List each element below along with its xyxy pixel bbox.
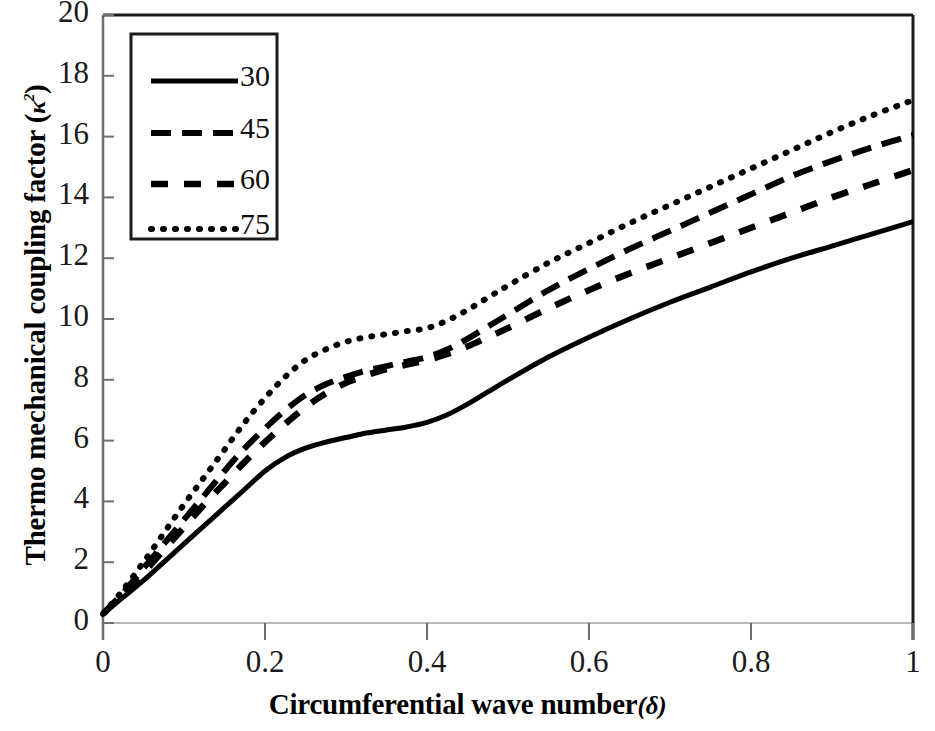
x-axis-title: Circumferential wave number(δ) <box>0 688 935 721</box>
x-axis-title-symbol: (δ) <box>638 692 667 719</box>
x-tick-label: 0.4 <box>382 644 472 680</box>
y-axis-title-text: Thermo mechanical coupling factor <box>19 130 51 565</box>
x-tick-label: 0.2 <box>220 644 310 680</box>
legend-label-75: 75 <box>240 207 270 241</box>
series-line-30 <box>103 222 913 614</box>
y-axis-title-exponent: 2 <box>21 94 37 101</box>
y-axis-title-wrap: Thermo mechanical coupling factor (κ2) <box>19 5 59 645</box>
legend-label-60: 60 <box>240 162 270 196</box>
y-axis-title: Thermo mechanical coupling factor (κ2) <box>19 85 52 566</box>
x-tick-label: 1 <box>868 644 935 680</box>
x-tick-label: 0.8 <box>706 644 796 680</box>
y-tick-marks <box>103 15 114 623</box>
legend-label-45: 45 <box>240 111 270 145</box>
y-axis-title-paren: ( <box>19 114 51 131</box>
plot-area <box>0 0 935 731</box>
x-axis-title-text: Circumferential wave number <box>269 688 638 720</box>
y-axis-title-paren-close: ) <box>19 85 51 94</box>
legend-label-30: 30 <box>240 59 270 93</box>
x-tick-label: 0.6 <box>544 644 634 680</box>
chart-figure: 0246810121416182000.20.40.60.81 30456075… <box>0 0 935 731</box>
x-tick-label: 0 <box>58 644 148 680</box>
y-axis-title-symbol: κ <box>24 101 50 114</box>
x-tick-marks <box>103 623 913 640</box>
